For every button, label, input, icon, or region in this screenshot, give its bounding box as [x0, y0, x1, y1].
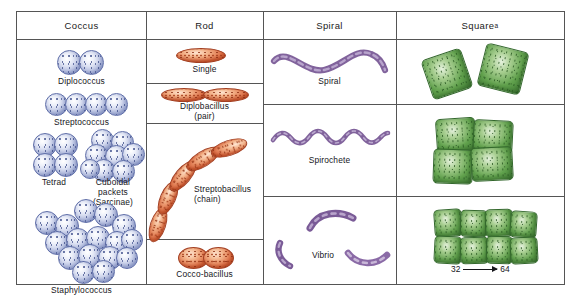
label-streptobacillus-line1: Streptobacillus [194, 184, 251, 194]
square-cell-tetrad [396, 104, 564, 196]
rod-cell-streptobacillus: Streptobacillus(chain) [146, 123, 263, 239]
figure-table: Coccus Rod Spiral Squarea Diplococcus [16, 11, 565, 285]
label-diplobacillus: Diplobacillus(pair) [146, 102, 263, 122]
rod-cell [161, 88, 207, 102]
label-streptobacillus-line2: (chain) [194, 194, 221, 204]
rod-cell [203, 88, 249, 102]
label-single: Single [146, 65, 263, 75]
column-header-spiral-label: Spiral [316, 20, 343, 31]
coccus-column-cell: Diplococcus Streptococcus Tetrad [17, 39, 146, 285]
column-header-rod-label: Rod [195, 20, 214, 31]
label-spirochete: Spirochete [263, 156, 396, 166]
rod-cell [208, 135, 249, 162]
coccus-cell [105, 93, 128, 116]
label-streptococcus: Streptococcus [17, 118, 146, 128]
rod-cell [203, 247, 234, 269]
spiral-cell-spiral: Spiral [263, 39, 396, 104]
square-division-annotation: 32 64 [451, 264, 510, 274]
spirochete-organism [270, 126, 390, 148]
coccus-cell [116, 247, 138, 269]
label-diplobacillus-line1: Diplobacillus [180, 101, 229, 111]
arrow-icon [463, 269, 497, 270]
label-tetrad: Tetrad [25, 178, 83, 188]
label-diplobacillus-line2: (pair) [194, 111, 214, 121]
division-count-to: 64 [500, 264, 509, 274]
column-header-square-label: Square [461, 20, 494, 31]
spiral-cell-spirochete: Spirochete [263, 104, 396, 196]
rod-cell-diplobacillus: Diplobacillus(pair) [146, 83, 263, 123]
label-diplococcus: Diplococcus [17, 77, 146, 87]
coccus-cell [79, 50, 104, 75]
square-cell [420, 47, 473, 100]
square-cell [432, 148, 473, 184]
coccus-cell [54, 153, 78, 177]
rod-cell-coccobacillus: Cocco-bacillus [146, 239, 263, 285]
vibrio-organism [306, 210, 358, 232]
coccus-cell [80, 159, 100, 179]
square-cell [476, 42, 529, 95]
coccus-cell [92, 260, 115, 283]
division-count-from: 32 [451, 264, 460, 274]
label-cuboidal-packets-line1: Cuboidal packets [96, 177, 130, 197]
rod-cell-single: Single [146, 39, 263, 83]
column-header-coccus-label: Coccus [64, 20, 98, 31]
label-spiral: Spiral [263, 77, 396, 87]
square-cell [433, 235, 462, 264]
bacterial-morphology-figure: Coccus Rod Spiral Squarea Diplococcus [0, 0, 580, 297]
square-cell-sheet: 32 64 [396, 196, 564, 285]
square-cell [433, 208, 463, 238]
column-header-rod: Rod [146, 12, 263, 39]
column-header-spiral: Spiral [263, 12, 396, 39]
spiral-cell-vibrio: Vibrio [263, 196, 396, 285]
column-header-coccus: Coccus [17, 12, 146, 39]
label-staphylococcus: Staphylococcus [17, 286, 146, 296]
label-vibrio: Vibrio [293, 251, 353, 261]
square-cell-pair [396, 39, 564, 104]
label-streptobacillus: Streptobacillus(chain) [194, 185, 263, 205]
square-cell [509, 236, 538, 264]
rod-cell [176, 48, 226, 63]
square-cell [470, 146, 514, 182]
column-header-square: Squarea [396, 12, 564, 39]
label-coccobacillus: Cocco-bacillus [146, 270, 263, 280]
square-cell [509, 210, 538, 239]
